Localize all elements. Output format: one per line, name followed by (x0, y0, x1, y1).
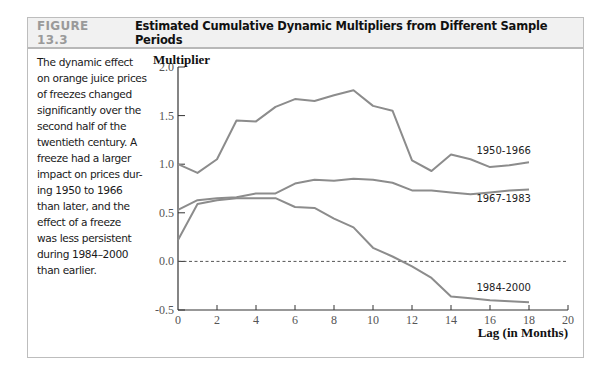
y-tick-label: 1.0 (159, 157, 174, 171)
series-line-1950-1966 (178, 90, 529, 173)
x-axis-title: Lag (in Months) (478, 325, 568, 340)
x-tick-label: 8 (331, 313, 337, 327)
x-tick-label: 10 (367, 313, 379, 327)
x-tick-label: 12 (406, 313, 418, 327)
series-label: 1967-1983 (476, 193, 531, 204)
series-label: 1950-1966 (476, 145, 531, 156)
x-tick-label: 2 (214, 313, 220, 327)
y-tick-label: 0.5 (159, 206, 174, 220)
x-tick-label: 14 (445, 313, 457, 327)
x-tick-label: 4 (253, 313, 259, 327)
y-tick-label: -0.5 (155, 303, 174, 317)
y-axis-title: Multiplier (153, 52, 210, 67)
y-tick-label: 0.0 (159, 254, 174, 268)
series-label: 1984-2000 (476, 282, 531, 293)
x-tick-label: 6 (292, 313, 298, 327)
y-tick-label: 1.5 (159, 109, 174, 123)
line-chart: -0.50.00.51.01.52.002468101214161820Mult… (0, 0, 604, 376)
x-tick-label: 0 (175, 313, 181, 327)
